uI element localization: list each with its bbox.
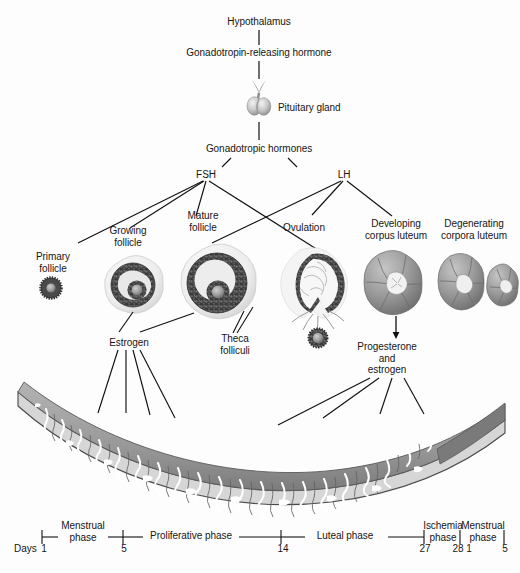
gonadotropin-split-lines: [222, 158, 297, 167]
phase-luteal: Luteal phase: [317, 530, 374, 542]
ovulation-illustration: [281, 248, 348, 348]
diagram-canvas: [0, 0, 520, 573]
label-pituitary-gland: Pituitary gland: [278, 102, 341, 114]
timeline-tick-1b: 1: [466, 543, 472, 555]
endometrium-illustration: [18, 382, 505, 518]
timeline-tick-1: 1: [41, 543, 47, 555]
label-developing-corpus-luteum: Developing corpus luteum: [365, 218, 427, 241]
label-fsh: FSH: [196, 169, 216, 181]
label-mature-follicle: Mature follicle: [188, 210, 219, 233]
label-gonadotropic-hormones: Gonadotropic hormones: [206, 143, 312, 155]
growing-follicle-illustration: [105, 256, 164, 314]
label-lh: LH: [338, 169, 351, 181]
label-progesterone-and-estrogen: Progesterone and estrogen: [357, 341, 416, 376]
label-hypothalamus: Hypothalamus: [227, 16, 290, 28]
developing-corpus-luteum-illustration: [364, 250, 422, 339]
estrogen-to-endometrium-lines: [98, 350, 175, 418]
label-degenerating-corpora-luteum: Degenerating corpora luteum: [441, 218, 507, 241]
timeline-tick-5b: 5: [502, 543, 508, 555]
progesterone-to-endometrium-lines: [278, 378, 424, 425]
phase-menstrual-1: Menstrual phase: [61, 520, 104, 543]
phase-menstrual-2: Menstrual phase: [461, 520, 504, 543]
degenerating-corpora-luteum-illustration: [438, 253, 518, 310]
pituitary-gland-icon: [247, 80, 271, 115]
phase-ischemia: Ischemia phase: [423, 520, 463, 543]
estrogen-source-lines: [119, 312, 194, 332]
label-primary-follicle: Primary follicle: [36, 251, 70, 274]
label-gnrh: Gonadotropin-releasing hormone: [186, 47, 331, 59]
timeline-tick-14: 14: [277, 543, 288, 555]
label-estrogen: Estrogen: [109, 337, 149, 349]
menstrual-cycle-diagram: Hypothalamus Gonadotropin-releasing horm…: [0, 0, 520, 573]
timeline-days-label: Days: [14, 543, 37, 555]
primary-follicle-illustration: [41, 278, 62, 299]
label-ovulation: Ovulation: [283, 222, 325, 234]
label-theca-folliculi: Theca folliculi: [220, 333, 250, 356]
timeline-tick-28: 28: [452, 543, 463, 555]
timeline-tick-5: 5: [121, 543, 127, 555]
label-growing-follicle: Growing follicle: [110, 225, 147, 248]
timeline-tick-27: 27: [419, 543, 430, 555]
phase-proliferative: Proliferative phase: [150, 530, 232, 542]
mature-follicle-illustration: [181, 244, 256, 319]
